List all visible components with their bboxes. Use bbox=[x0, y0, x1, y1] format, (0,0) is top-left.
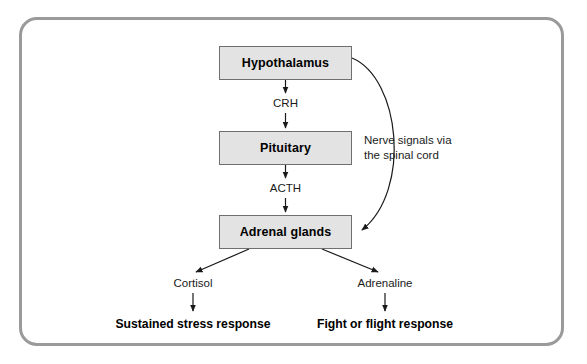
edge-label-crh: CRH bbox=[219, 97, 352, 109]
node-hypothalamus: Hypothalamus bbox=[219, 46, 352, 80]
nerve-pathway-line-2: the spinal cord bbox=[364, 148, 484, 163]
node-hypothalamus-label: Hypothalamus bbox=[242, 56, 329, 70]
nerve-pathway-label: Nerve signals via the spinal cord bbox=[364, 133, 484, 163]
node-pituitary-label: Pituitary bbox=[260, 141, 311, 155]
nerve-pathway-line-1: Nerve signals via bbox=[364, 133, 484, 148]
outcome-fight-or-flight-response: Fight or flight response bbox=[295, 317, 475, 331]
edge-label-cortisol: Cortisol bbox=[138, 277, 248, 289]
outcome-sustained-stress-response: Sustained stress response bbox=[103, 317, 283, 331]
node-pituitary: Pituitary bbox=[219, 131, 352, 165]
arrow-adrenal-to-adrenaline bbox=[322, 249, 378, 272]
edge-label-acth: ACTH bbox=[219, 182, 352, 194]
node-adrenal-glands: Adrenal glands bbox=[219, 215, 352, 249]
edge-label-adrenaline: Adrenaline bbox=[330, 277, 440, 289]
arrow-adrenal-to-cortisol bbox=[196, 249, 249, 272]
node-adrenal-glands-label: Adrenal glands bbox=[240, 225, 332, 239]
stress-response-diagram: Hypothalamus Pituitary Adrenal glands CR… bbox=[0, 0, 587, 364]
